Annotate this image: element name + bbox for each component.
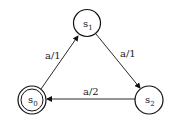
state-subscript-s1: 1 [88,24,92,32]
state-subscript-s0: 0 [33,100,37,108]
state-s2: s2 [135,86,163,114]
state-subscript-s2: 2 [150,100,154,108]
transition-label-s2-s0: a/2 [83,86,99,97]
state-s0: s0 [18,86,46,114]
transition-label-s0-s1: a/1 [45,50,61,61]
transition-label-s1-s2: a/1 [120,48,136,59]
state-diagram: a/1 a/1 a/2 s1 s0 s2 [0,0,173,122]
state-s1: s1 [74,10,101,37]
transition-s1-s2: a/1 [96,34,140,88]
transition-s0-s1: a/1 [41,36,78,89]
transition-s2-s0: a/2 [47,86,135,99]
